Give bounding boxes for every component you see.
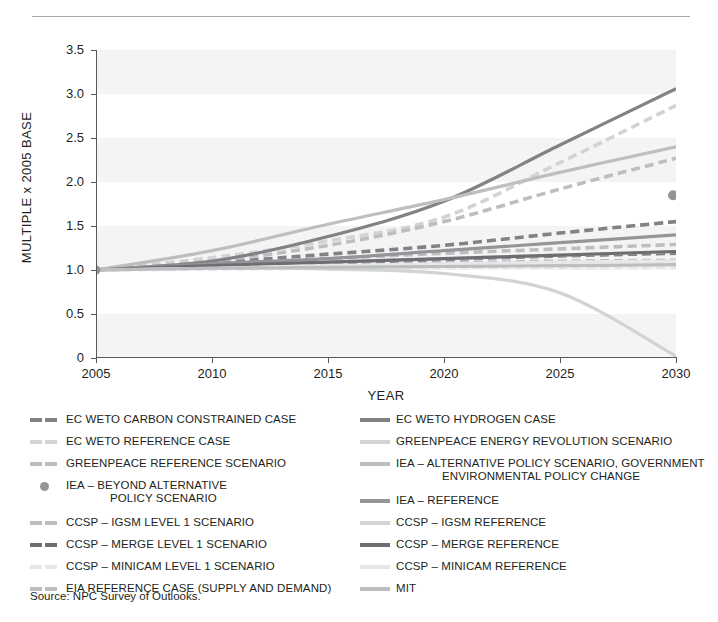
y-tick	[91, 226, 96, 227]
legend-item[interactable]: EC WETO REFERENCE CASE	[28, 434, 358, 456]
legend-swatch	[30, 462, 60, 466]
y-tick-label: 1.0	[50, 263, 84, 276]
legend-item[interactable]: IEA – REFERENCE	[358, 493, 718, 515]
legend-item[interactable]: IEA – BEYOND ALTERNATIVEPOLICY SCENARIO	[28, 478, 358, 515]
source-note: Source: NPC Survey of Outlooks.	[30, 590, 201, 602]
legend-item-label: GREENPEACE REFERENCE SCENARIO	[62, 456, 286, 470]
y-tick-label: 0	[50, 351, 84, 364]
legend-solid-line-icon	[358, 560, 392, 574]
legend-item[interactable]: EC WETO CARBON CONSTRAINED CASE	[28, 412, 358, 434]
legend-solid-line-icon	[358, 413, 392, 427]
y-tick-label: 2.0	[50, 175, 84, 188]
legend-swatch	[30, 521, 60, 525]
x-axis-line	[96, 357, 677, 358]
legend-swatch	[360, 543, 390, 547]
legend-item[interactable]: CCSP – MERGE REFERENCE	[358, 537, 718, 559]
legend-solid-line-icon	[358, 435, 392, 449]
series-marker	[668, 190, 676, 200]
y-tick	[91, 182, 96, 183]
series-layer	[96, 50, 676, 358]
series-line	[96, 89, 676, 270]
legend-item-label: CCSP – IGSM LEVEL 1 SCENARIO	[62, 515, 254, 529]
x-axis-title: YEAR	[96, 388, 676, 403]
legend-solid-line-icon	[358, 516, 392, 530]
y-tick	[91, 138, 96, 139]
legend-item[interactable]: CCSP – IGSM REFERENCE	[358, 515, 718, 537]
legend-swatch	[30, 440, 60, 444]
legend-item[interactable]: CCSP – IGSM LEVEL 1 SCENARIO	[28, 515, 358, 537]
legend-item-label: CCSP – IGSM REFERENCE	[392, 515, 546, 529]
y-tick-label: 1.5	[50, 219, 84, 232]
legend-dashed-line-icon	[28, 413, 62, 427]
legend-solid-line-icon	[358, 457, 392, 471]
legend-swatch	[360, 418, 390, 422]
y-axis-line	[96, 50, 97, 358]
legend-column-left: EC WETO CARBON CONSTRAINED CASEEC WETO R…	[28, 412, 358, 603]
legend-item-label: IEA – REFERENCE	[392, 493, 499, 507]
legend-item[interactable]: CCSP – MINICAM LEVEL 1 SCENARIO	[28, 559, 358, 581]
legend-swatch	[360, 499, 390, 503]
y-tick	[91, 94, 96, 95]
x-tick-label: 2025	[530, 366, 590, 381]
legend-swatch	[30, 418, 60, 422]
legend-solid-line-icon	[358, 494, 392, 508]
legend-swatch	[360, 440, 390, 444]
legend-solid-line-icon	[358, 538, 392, 552]
legend-swatch	[360, 565, 390, 569]
x-tick-label: 2010	[182, 366, 242, 381]
legend-item-label: GREENPEACE ENERGY REVOLUTION SCENARIO	[392, 434, 672, 448]
series-line	[96, 268, 676, 356]
header-divider	[32, 16, 690, 17]
legend-item[interactable]: IEA – ALTERNATIVE POLICY SCENARIO, GOVER…	[358, 456, 718, 493]
y-tick-label: 0.5	[50, 307, 84, 320]
legend-item[interactable]: CCSP – MINICAM REFERENCE	[358, 559, 718, 581]
x-tick-label: 2015	[298, 366, 358, 381]
x-tick-label: 2005	[66, 366, 126, 381]
legend-item[interactable]: CCSP – MERGE LEVEL 1 SCENARIO	[28, 537, 358, 559]
legend-column-right: EC WETO HYDROGEN CASEGREENPEACE ENERGY R…	[358, 412, 718, 603]
legend-swatch	[30, 565, 60, 569]
x-tick	[96, 358, 97, 363]
x-tick	[328, 358, 329, 363]
legend-item[interactable]: GREENPEACE ENERGY REVOLUTION SCENARIO	[358, 434, 718, 456]
legend-item-label: MIT	[392, 581, 416, 595]
legend-item-label: CCSP – MERGE REFERENCE	[392, 537, 559, 551]
legend-item[interactable]: EC WETO HYDROGEN CASE	[358, 412, 718, 434]
x-tick	[444, 358, 445, 363]
legend-dashed-line-icon	[28, 457, 62, 471]
legend-marker-dot-icon	[28, 479, 62, 493]
legend-swatch	[360, 462, 390, 466]
legend-item-label: CCSP – MINICAM LEVEL 1 SCENARIO	[62, 559, 275, 573]
y-tick	[91, 314, 96, 315]
legend-dashed-line-icon	[28, 516, 62, 530]
y-axis-title: MULTIPLE x 2005 BASE	[19, 58, 34, 318]
legend-dashed-line-icon	[28, 538, 62, 552]
chart-container: 00.51.01.52.02.53.03.5 20052010201520202…	[0, 30, 718, 375]
legend-item-label: IEA – BEYOND ALTERNATIVEPOLICY SCENARIO	[62, 478, 227, 505]
legend-swatch	[360, 587, 390, 591]
legend-dashed-line-icon	[28, 560, 62, 574]
legend-item-label: CCSP – MINICAM REFERENCE	[392, 559, 567, 573]
figure-page: 00.51.01.52.02.53.03.5 20052010201520202…	[0, 0, 718, 622]
x-tick	[676, 358, 677, 363]
series-line	[96, 147, 676, 270]
x-tick	[560, 358, 561, 363]
legend-item-label: EC WETO CARBON CONSTRAINED CASE	[62, 412, 296, 426]
legend-swatch	[30, 543, 60, 547]
legend-item[interactable]: MIT	[358, 581, 718, 603]
legend-item-label: EC WETO REFERENCE CASE	[62, 434, 230, 448]
legend-dot-icon	[40, 482, 49, 491]
x-tick	[212, 358, 213, 363]
y-tick-label: 2.5	[50, 131, 84, 144]
legend-item-label: IEA – ALTERNATIVE POLICY SCENARIO, GOVER…	[392, 456, 705, 483]
y-tick-label: 3.5	[50, 43, 84, 56]
x-tick-label: 2020	[414, 366, 474, 381]
legend-item-label: CCSP – MERGE LEVEL 1 SCENARIO	[62, 537, 267, 551]
legend-solid-line-icon	[358, 582, 392, 596]
legend-dashed-line-icon	[28, 435, 62, 449]
y-tick	[91, 270, 96, 271]
y-tick-label: 3.0	[50, 87, 84, 100]
legend-item[interactable]: GREENPEACE REFERENCE SCENARIO	[28, 456, 358, 478]
y-tick	[91, 50, 96, 51]
legend-item-label: EC WETO HYDROGEN CASE	[392, 412, 556, 426]
